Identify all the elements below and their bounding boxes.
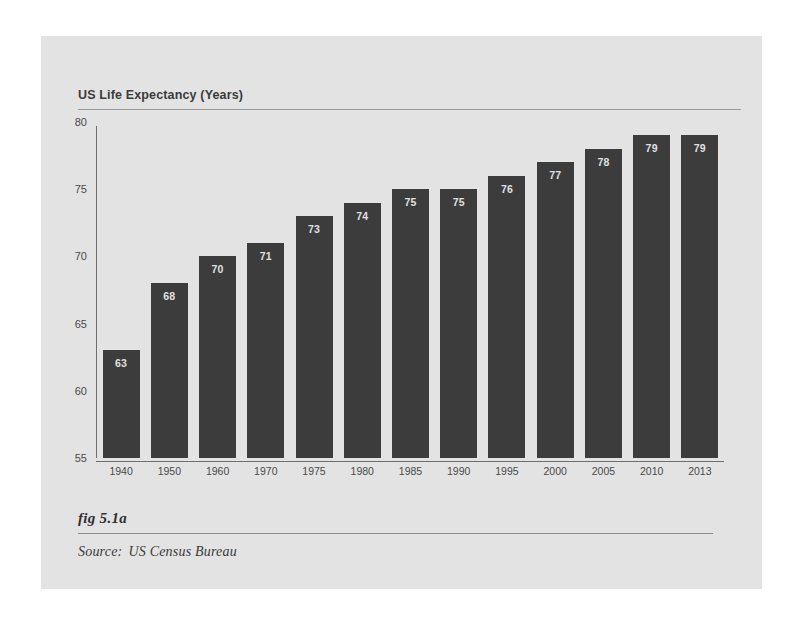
x-tick-label: 2013	[674, 465, 725, 477]
bar-value-label: 74	[344, 210, 381, 222]
bar-value-label: 70	[199, 263, 236, 275]
x-tick-label: 1960	[192, 465, 243, 477]
y-tick-label: 70	[75, 250, 87, 262]
figure-number-label: fig 5.1a	[78, 510, 127, 527]
y-tick-label: 75	[75, 183, 87, 195]
bar[interactable]: 79	[633, 135, 670, 458]
bar[interactable]: 75	[440, 189, 477, 458]
bar[interactable]: 76	[488, 176, 525, 458]
x-tick-label: 1950	[144, 465, 195, 477]
x-tick-label: 1975	[289, 465, 340, 477]
source-line: Source:US Census Bureau	[78, 544, 237, 560]
bar-group[interactable]: 711970	[247, 122, 284, 458]
bar-value-label: 71	[247, 250, 284, 262]
bar-group[interactable]: 631940	[103, 122, 140, 458]
bar[interactable]: 74	[344, 203, 381, 458]
bar-value-label: 75	[392, 196, 429, 208]
x-axis-line	[96, 461, 724, 462]
figure-page: US Life Expectancy (Years) 807570656055 …	[0, 0, 801, 627]
plot-area: 807570656055 631940681950701960711970731…	[96, 122, 724, 462]
x-tick-label: 2000	[530, 465, 581, 477]
chart-title: US Life Expectancy (Years)	[78, 88, 243, 102]
bar-value-label: 77	[537, 169, 574, 181]
bar-group[interactable]: 741980	[344, 122, 381, 458]
y-tick-label: 60	[75, 385, 87, 397]
figure-panel: US Life Expectancy (Years) 807570656055 …	[41, 36, 762, 589]
x-tick-label: 2010	[626, 465, 677, 477]
bar[interactable]: 75	[392, 189, 429, 458]
bar-value-label: 76	[488, 183, 525, 195]
bar[interactable]: 70	[199, 256, 236, 458]
bar-group[interactable]: 731975	[296, 122, 333, 458]
x-tick-label: 1980	[337, 465, 388, 477]
x-tick-label: 1985	[385, 465, 436, 477]
bar[interactable]: 79	[681, 135, 718, 458]
bar-value-label: 79	[633, 142, 670, 154]
bar-group[interactable]: 772000	[537, 122, 574, 458]
bar-group[interactable]: 681950	[151, 122, 188, 458]
y-tick-label: 65	[75, 318, 87, 330]
bar[interactable]: 78	[585, 149, 622, 458]
bar-group[interactable]: 751990	[440, 122, 477, 458]
x-tick-label: 1995	[481, 465, 532, 477]
bar-value-label: 79	[681, 142, 718, 154]
bar-group[interactable]: 701960	[199, 122, 236, 458]
y-tick-label: 55	[75, 452, 87, 464]
caption-divider	[78, 533, 713, 534]
source-label: Source:	[78, 544, 122, 559]
x-tick-label: 1990	[433, 465, 484, 477]
bar-group[interactable]: 761995	[488, 122, 525, 458]
bar-value-label: 73	[296, 223, 333, 235]
bar-group[interactable]: 751985	[392, 122, 429, 458]
bar-value-label: 63	[103, 357, 140, 369]
bar-group[interactable]: 792013	[681, 122, 718, 458]
bar[interactable]: 77	[537, 162, 574, 458]
bar[interactable]: 73	[296, 216, 333, 458]
bar-group[interactable]: 782005	[585, 122, 622, 458]
bar-group[interactable]: 792010	[633, 122, 670, 458]
bar-series: 6319406819507019607119707319757419807519…	[97, 122, 724, 458]
x-tick-label: 2005	[578, 465, 629, 477]
x-tick-label: 1970	[240, 465, 291, 477]
y-tick-label: 80	[75, 116, 87, 128]
bar-value-label: 75	[440, 196, 477, 208]
source-text: US Census Bureau	[128, 544, 236, 559]
bar[interactable]: 63	[103, 350, 140, 458]
x-tick-label: 1940	[96, 465, 147, 477]
title-divider	[78, 109, 741, 110]
bar[interactable]: 71	[247, 243, 284, 458]
bar[interactable]: 68	[151, 283, 188, 458]
bar-value-label: 78	[585, 156, 622, 168]
bar-value-label: 68	[151, 290, 188, 302]
